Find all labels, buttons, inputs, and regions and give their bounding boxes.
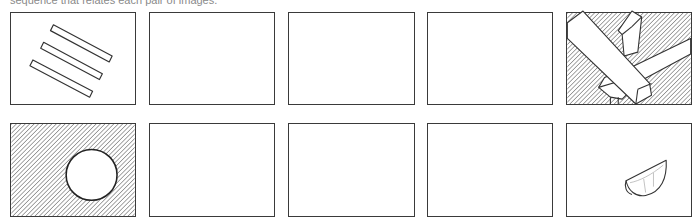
three-bars-drawing	[11, 13, 135, 104]
panel-row2-blank-3[interactable]	[427, 123, 553, 217]
panel-row1-blank-2[interactable]	[288, 12, 415, 105]
circle-on-hatch-drawing	[11, 124, 135, 216]
panel-row1-blank-3[interactable]	[427, 12, 553, 105]
panel-row1-start	[10, 12, 136, 105]
panel-row1-blank-1[interactable]	[149, 12, 275, 105]
panel-row1-end	[566, 12, 692, 105]
panel-row2-start	[10, 123, 136, 217]
instruction-caption: sequence that relates each pair of image…	[10, 0, 217, 6]
panel-row2-end	[566, 123, 692, 217]
panel-row2-blank-2[interactable]	[288, 123, 415, 217]
orange-wedge-drawing	[567, 124, 691, 216]
crossed-planks-drawing	[567, 13, 691, 104]
panel-row2-blank-1[interactable]	[149, 123, 275, 217]
